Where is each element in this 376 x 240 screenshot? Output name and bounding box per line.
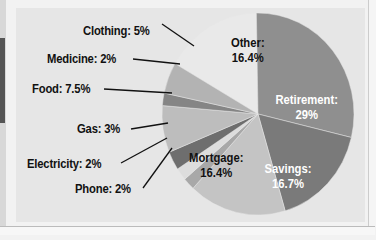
leader-food [104, 89, 172, 93]
label-gas: Gas: 3% [77, 122, 120, 136]
label-other-name: Other: [231, 36, 265, 51]
label-savings: Savings: 16.7% [265, 162, 312, 192]
label-food: Food: 7.5% [32, 82, 90, 96]
label-mortgage: Mortgage: 16.4% [189, 151, 243, 181]
label-savings-value: 16.7% [265, 177, 312, 192]
label-other: Other: 16.4% [231, 36, 265, 66]
label-retirement-name: Retirement: [275, 93, 338, 108]
leader-medicine [133, 59, 180, 64]
label-medicine: Medicine: 2% [47, 52, 116, 66]
label-retirement-value: 29% [275, 108, 338, 123]
leader-phone [143, 148, 172, 188]
label-clothing: Clothing: 5% [83, 24, 150, 38]
label-mortgage-name: Mortgage: [189, 151, 243, 166]
label-savings-name: Savings: [265, 162, 312, 177]
leader-clothing [162, 24, 194, 46]
label-mortgage-value: 16.4% [189, 166, 243, 181]
leader-electricity [121, 138, 167, 163]
label-electricity: Electricity: 2% [27, 157, 101, 171]
label-other-value: 16.4% [231, 51, 265, 66]
label-phone: Phone: 2% [75, 182, 131, 196]
label-retirement: Retirement: 29% [275, 93, 338, 123]
